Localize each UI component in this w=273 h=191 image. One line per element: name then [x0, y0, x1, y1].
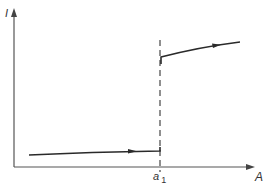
- x-axis-label: A: [254, 170, 263, 184]
- y-axis-label: I: [5, 7, 8, 19]
- y-axis: [11, 8, 17, 167]
- threshold-label: a1: [153, 170, 166, 185]
- x-axis: [14, 164, 255, 170]
- diagram-figure: I A a1: [0, 0, 273, 191]
- upper-branch-curve: [161, 42, 240, 64]
- lower-branch-arrow-icon: [128, 149, 137, 154]
- lower-branch-curve: [29, 147, 160, 155]
- y-axis-arrow-icon: [11, 8, 17, 17]
- x-axis-arrow-icon: [246, 164, 255, 170]
